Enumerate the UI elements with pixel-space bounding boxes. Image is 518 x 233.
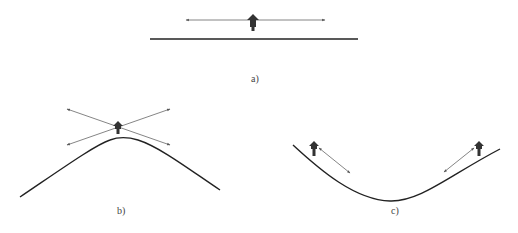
left-slope-arrow <box>319 148 350 173</box>
concave-surface-curve <box>293 145 500 201</box>
panel-a <box>150 14 358 39</box>
panel-c <box>293 141 500 201</box>
panel-b-label: b) <box>117 205 125 216</box>
figure-canvas: a) b) c) <box>0 0 518 233</box>
panel-c-label: c) <box>391 205 399 216</box>
particle-icon <box>247 14 259 31</box>
particle-icon-left <box>309 141 319 156</box>
particle-icon-right <box>474 141 484 156</box>
convex-surface-curve <box>20 138 220 197</box>
right-slope-arrow <box>444 148 474 172</box>
panel-a-label: a) <box>251 73 259 84</box>
particle-icon <box>113 121 123 134</box>
diagram-svg <box>0 0 518 233</box>
panel-b <box>20 109 220 197</box>
